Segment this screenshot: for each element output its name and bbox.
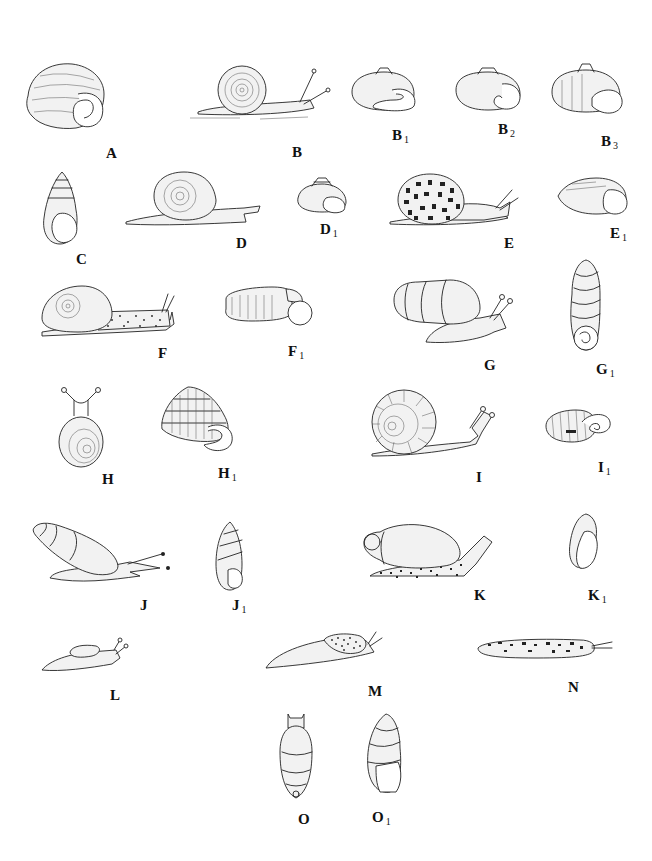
- shell-h1-illustration: [158, 385, 238, 455]
- figure-label: K: [474, 588, 488, 605]
- figure-h: H: [56, 386, 106, 468]
- snail-h-illustration: [56, 386, 106, 468]
- shell-o1-illustration: [364, 712, 404, 794]
- figure-o: O: [278, 712, 314, 802]
- snail-g-illustration: [390, 276, 518, 348]
- shell-d1-illustration: [294, 176, 350, 214]
- figure-label: J: [140, 598, 150, 615]
- figure-label: A: [106, 146, 119, 163]
- figure-o1: O1: [364, 712, 404, 794]
- figure-j1: J1: [212, 520, 246, 592]
- figure-label: B: [292, 145, 304, 162]
- shell-e1-illustration: [556, 176, 632, 216]
- shell-f1-illustration: [222, 283, 314, 327]
- figure-label: I: [476, 470, 484, 487]
- figure-label: K1: [588, 588, 607, 605]
- figure-label: E1: [610, 226, 627, 243]
- figure-b: B: [180, 60, 330, 122]
- figure-label: M: [368, 684, 384, 701]
- shell-g1-illustration: [568, 258, 604, 354]
- snail-d-illustration: [124, 170, 262, 228]
- figure-label: E: [504, 236, 516, 253]
- shell-c-illustration: [40, 170, 82, 246]
- figure-label: L: [110, 688, 122, 705]
- shell-b1-illustration: [348, 68, 420, 112]
- figure-a: A: [20, 60, 110, 132]
- figure-b2: B2: [452, 66, 524, 112]
- figure-n: N: [476, 636, 612, 660]
- figure-label: G1: [596, 362, 615, 379]
- figure-g: G: [390, 276, 518, 348]
- figure-j: J: [30, 520, 170, 586]
- figure-label: H: [102, 472, 116, 489]
- semislug-l-illustration: [40, 638, 130, 674]
- figure-label: O1: [372, 810, 391, 827]
- snail-i-illustration: [364, 388, 502, 458]
- figure-i1: I1: [542, 408, 612, 444]
- figure-label: D: [236, 236, 249, 253]
- figure-g1: G1: [568, 258, 604, 354]
- figure-label: B3: [601, 134, 618, 151]
- figure-b3: B3: [548, 62, 626, 116]
- snail-o-illustration: [278, 712, 314, 802]
- figure-f: F: [38, 284, 178, 340]
- figure-i: I: [364, 388, 502, 458]
- figure-label: C: [76, 252, 89, 269]
- figure-f1: F1: [222, 283, 314, 327]
- shell-k1-illustration: [566, 512, 602, 570]
- figure-label: D1: [320, 222, 338, 239]
- figure-label: J1: [232, 598, 247, 615]
- snail-b-illustration: [180, 60, 330, 122]
- figure-l: L: [40, 638, 130, 674]
- figure-label: I1: [598, 460, 611, 477]
- figure-label: F: [158, 346, 169, 363]
- snail-f-illustration: [38, 284, 178, 340]
- figure-label: B1: [392, 128, 409, 145]
- figure-label: G: [484, 358, 498, 375]
- shell-a-illustration: [20, 60, 110, 132]
- figure-d: D: [124, 170, 262, 228]
- figure-c: C: [40, 170, 82, 246]
- figure-m: M: [264, 630, 384, 670]
- snail-illustration-plate: A B B1: [0, 0, 652, 861]
- figure-e: E: [384, 172, 524, 232]
- shell-b2-illustration: [452, 66, 524, 112]
- figure-label: F1: [288, 344, 304, 361]
- snail-j-illustration: [30, 520, 170, 586]
- snail-e-illustration: [384, 172, 524, 232]
- figure-label: O: [298, 812, 312, 829]
- shell-j1-illustration: [212, 520, 246, 592]
- figure-label: B2: [498, 122, 515, 139]
- figure-h1: H1: [158, 385, 238, 455]
- figure-d1: D1: [294, 176, 350, 214]
- figure-label: N: [568, 680, 581, 697]
- snail-k-illustration: [360, 518, 498, 580]
- figure-k: K: [360, 518, 498, 580]
- slug-m-illustration: [264, 630, 384, 670]
- figure-b1: B1: [348, 68, 420, 112]
- figure-k1: K1: [566, 512, 602, 570]
- figure-e1: E1: [556, 176, 632, 216]
- slug-n-illustration: [476, 636, 612, 660]
- shell-i1-illustration: [542, 408, 612, 444]
- shell-b3-illustration: [548, 62, 626, 116]
- figure-label: H1: [218, 466, 237, 483]
